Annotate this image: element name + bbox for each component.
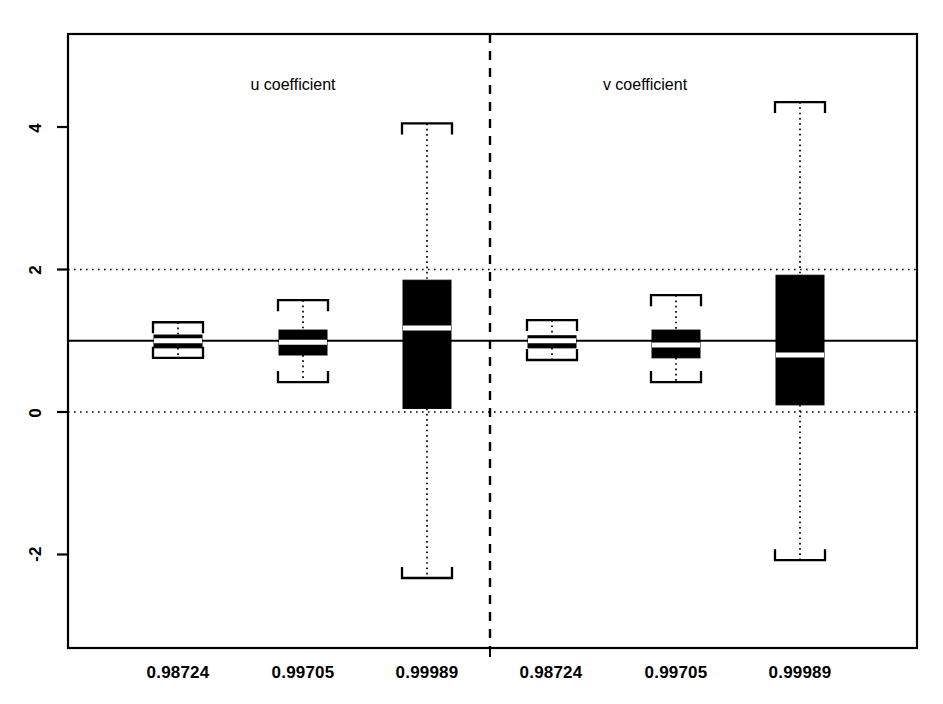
box-iqr: [776, 275, 824, 405]
x-tick-label-v-2: 0.99705: [626, 663, 726, 683]
x-tick-label-u-2: 0.99705: [253, 663, 353, 683]
panel-title-u: u coefficient: [203, 76, 383, 94]
x-tick-label-u-3: 0.99989: [377, 663, 477, 683]
y-tick-label-minus-2: -2: [26, 532, 46, 576]
y-tick-label-4: 4: [26, 110, 46, 146]
y-tick-label-0: 0: [26, 395, 46, 431]
panel-title-v: v coefficient: [555, 76, 735, 94]
x-tick-label-v-3: 0.99989: [750, 663, 850, 683]
y-tick-label-2: 2: [26, 252, 46, 288]
x-tick-label-v-1: 0.98724: [501, 663, 601, 683]
boxplot-figure: 4 2 0 -2 0.98724 0.99705 0.99989 0.98724…: [0, 0, 943, 704]
box-iqr: [403, 280, 451, 408]
boxplot-canvas: [0, 0, 943, 704]
x-tick-label-u-1: 0.98724: [128, 663, 228, 683]
